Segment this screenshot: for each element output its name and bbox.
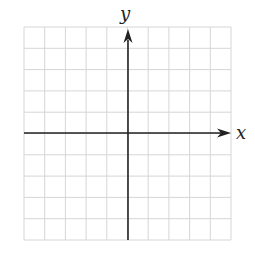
x-axis-label: x xyxy=(236,122,246,143)
coordinate-plane: x y xyxy=(0,0,255,256)
y-axis-label: y xyxy=(119,3,131,24)
